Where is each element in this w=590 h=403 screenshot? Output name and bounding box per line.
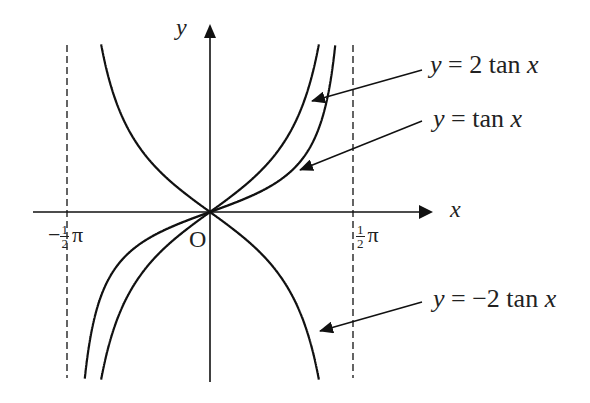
tick-pi: π bbox=[368, 222, 379, 247]
tick-pi: π bbox=[72, 222, 83, 247]
origin-label: O bbox=[189, 226, 206, 253]
pointer-2tan bbox=[312, 70, 422, 101]
y-axis-arrow-icon bbox=[204, 24, 216, 38]
eq-y: y bbox=[433, 284, 445, 313]
eq-x: x bbox=[527, 50, 539, 79]
pointer-neg-2tan bbox=[320, 302, 422, 331]
eq-body: = tan bbox=[445, 104, 511, 133]
y-axis-label: y bbox=[176, 14, 187, 41]
tick-half-pi: 12π bbox=[356, 222, 379, 250]
legend-tan-x: y = tan x bbox=[433, 104, 522, 134]
eq-body: = −2 tan bbox=[445, 284, 545, 313]
eq-y: y bbox=[430, 50, 442, 79]
tick-denominator: 2 bbox=[60, 237, 69, 250]
x-axis bbox=[33, 205, 433, 219]
y-axis bbox=[204, 24, 216, 382]
tick-numerator: 1 bbox=[356, 223, 365, 237]
eq-y: y bbox=[433, 104, 445, 133]
eq-body: = 2 tan bbox=[442, 50, 527, 79]
legend-neg-2tan-x: y = −2 tan x bbox=[433, 284, 556, 314]
tick-denominator: 2 bbox=[356, 237, 365, 250]
tick-neg-half-pi: −12π bbox=[48, 222, 83, 250]
x-axis-label: x bbox=[450, 196, 461, 223]
eq-x: x bbox=[545, 284, 557, 313]
eq-x: x bbox=[510, 104, 522, 133]
tick-numerator: 1 bbox=[60, 223, 69, 237]
x-axis-arrow-icon bbox=[419, 205, 433, 219]
tangent-graph-diagram: y x O −12π 12π y = 2 tan x y = tan x y =… bbox=[0, 0, 590, 403]
tick-sign: − bbox=[48, 222, 60, 247]
legend-2tan-x: y = 2 tan x bbox=[430, 50, 539, 80]
